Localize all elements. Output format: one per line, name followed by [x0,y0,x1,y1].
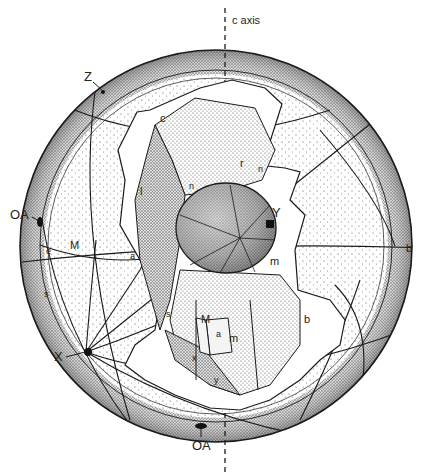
face-label-r: r [240,158,244,169]
z-direction-label: Z [84,70,92,83]
face-label-m-center: m [270,256,279,267]
face-label-l: l [140,186,142,197]
face-label-b-right: b [406,243,412,254]
oa-lower-marker [195,423,207,429]
oa-upper-marker [37,217,43,227]
face-label-s-left: s [44,290,49,299]
x-marker [84,348,92,356]
face-label-M-left: M [70,240,79,251]
central-sphere [176,183,276,273]
oa-upper-label: OA [10,208,29,221]
face-label-n-upper: n [189,182,194,191]
face-label-n-right: n [258,165,263,174]
y-direction-label: Y [272,206,281,219]
face-label-x-crystal: x [192,354,197,363]
oa-lower-label: OA [192,439,211,452]
face-label-m-crystal: m [229,333,238,344]
face-label-M-crystal: M [201,314,210,325]
face-label-s-crystal: s [166,310,171,319]
stereographic-projection-figure [0,0,427,474]
y-marker [266,220,274,228]
x-direction-label: X [54,350,63,363]
c-axis-label: c axis [232,15,260,26]
face-label-c: c [160,113,166,124]
face-label-b-crystal: b [304,314,310,325]
face-label-y-crystal: y [214,376,219,385]
face-label-e-left: e [46,247,51,256]
face-label-a-crystal: a [216,330,221,339]
face-label-a-left: a [130,252,135,261]
